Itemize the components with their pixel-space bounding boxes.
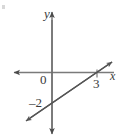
y-intercept-tick-label: –2 bbox=[29, 96, 42, 109]
x-intercept-tick-label: 3 bbox=[93, 77, 100, 90]
x-axis-label: x bbox=[110, 70, 115, 82]
corner-artifact bbox=[2, 5, 5, 9]
origin-label: 0 bbox=[40, 73, 47, 86]
y-axis-label: y bbox=[44, 7, 50, 20]
coordinate-plane-svg bbox=[0, 0, 122, 140]
linear-graph-figure: y x 0 3 –2 bbox=[0, 0, 122, 140]
plotted-line bbox=[26, 62, 112, 121]
